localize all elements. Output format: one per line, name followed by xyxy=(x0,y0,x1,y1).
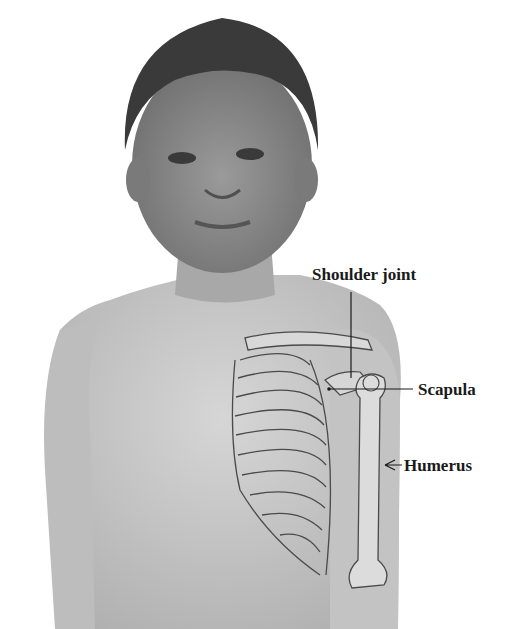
label-scapula: Scapula xyxy=(418,381,476,398)
anatomy-illustration xyxy=(0,0,516,629)
diagram-canvas: Shoulder joint Scapula Humerus xyxy=(0,0,516,629)
label-shoulder-joint: Shoulder joint xyxy=(312,266,416,283)
label-humerus: Humerus xyxy=(404,457,472,474)
